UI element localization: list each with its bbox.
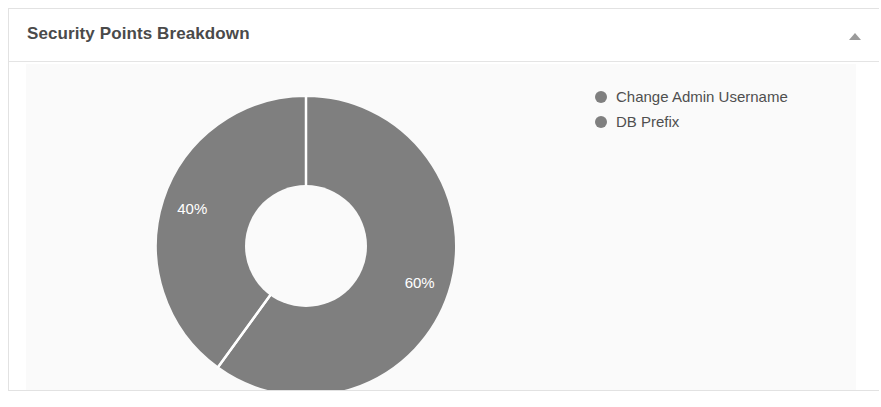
chart-legend: Change Admin Username DB Prefix bbox=[595, 84, 788, 134]
legend-item-label: Change Admin Username bbox=[616, 89, 788, 104]
panel-body: 40% 60% Change Admin Username DB Prefix bbox=[9, 62, 879, 390]
legend-marker-icon bbox=[595, 116, 607, 128]
caret-up-glyph bbox=[849, 33, 861, 40]
screenshot-root: Security Points Breakdown 40% bbox=[0, 0, 881, 407]
security-points-breakdown-panel: Security Points Breakdown 40% bbox=[8, 8, 879, 391]
legend-item-db-prefix[interactable]: DB Prefix bbox=[595, 109, 788, 134]
legend-item-change-admin-username[interactable]: Change Admin Username bbox=[595, 84, 788, 109]
donut-center-hole bbox=[245, 185, 367, 307]
caret-up-icon[interactable] bbox=[845, 27, 865, 45]
chart-plot-area: 40% 60% Change Admin Username DB Prefix bbox=[26, 64, 856, 390]
legend-marker-icon bbox=[595, 91, 607, 103]
legend-item-label: DB Prefix bbox=[616, 114, 679, 129]
page-title: Security Points Breakdown bbox=[27, 24, 250, 44]
slice-value-label-db-prefix: 40% bbox=[177, 200, 207, 217]
slice-value-label-change-admin-username: 60% bbox=[405, 274, 435, 291]
panel-header: Security Points Breakdown bbox=[9, 9, 879, 62]
